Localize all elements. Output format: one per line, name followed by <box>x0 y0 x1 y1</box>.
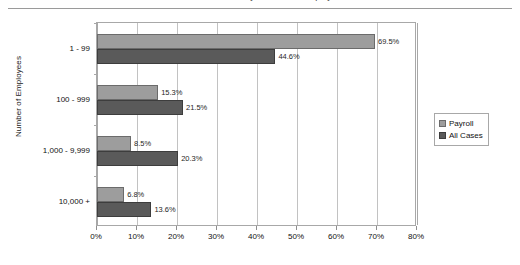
legend-swatch-payroll <box>439 120 446 127</box>
x-axis-tick <box>256 226 257 230</box>
x-axis-tick <box>376 226 377 230</box>
y-axis-tick <box>94 125 97 126</box>
x-axis-label: 0% <box>90 232 102 241</box>
x-axis-tick <box>336 226 337 230</box>
legend-item: All Cases <box>439 129 483 141</box>
y-axis-title: Number of Employees <box>14 27 23 167</box>
x-axis-tick <box>96 226 97 230</box>
x-axis-label: 60% <box>328 232 344 241</box>
x-axis-label: 50% <box>288 232 304 241</box>
bar-value-label: 15.3% <box>161 88 182 97</box>
legend-label: Payroll <box>449 119 473 128</box>
bar-value-label: 69.5% <box>378 37 399 46</box>
gridline-80pct <box>417 23 418 225</box>
bar-value-label: 8.5% <box>134 139 151 148</box>
category-row: 10,000 +6.8%13.6% <box>97 176 415 227</box>
chart-legend: PayrollAll Cases <box>434 113 489 146</box>
category-label: 100 - 999 <box>56 95 90 105</box>
bar-payroll <box>97 136 131 151</box>
x-axis-tick <box>216 226 217 230</box>
bar-payroll <box>97 34 375 49</box>
y-axis-tick <box>94 23 97 24</box>
bar-all-cases <box>97 49 275 64</box>
category-label: 10,000 + <box>59 197 90 207</box>
bar-value-label: 44.6% <box>278 52 299 61</box>
category-row: 1 - 9969.5%44.6% <box>97 23 415 74</box>
legend-label: All Cases <box>449 131 483 140</box>
bar-value-label: 20.3% <box>181 154 202 163</box>
y-axis-tick <box>94 176 97 177</box>
category-row: 100 - 99915.3%21.5% <box>97 74 415 125</box>
bar-payroll <box>97 187 124 202</box>
bar-payroll <box>97 85 158 100</box>
bar-all-cases <box>97 151 178 166</box>
x-axis-tick <box>416 226 417 230</box>
bar-value-label: 13.6% <box>154 205 175 214</box>
x-axis-tick <box>176 226 177 230</box>
x-axis-label: 80% <box>408 232 424 241</box>
category-row: 1,000 - 9,9998.5%20.3% <box>97 125 415 176</box>
y-axis-tick <box>94 74 97 75</box>
x-axis: 0%10%20%30%40%50%60%70%80% <box>96 226 416 250</box>
plot-area: 1 - 9969.5%44.6%100 - 99915.3%21.5%1,000… <box>96 22 416 226</box>
x-axis-label: 10% <box>128 232 144 241</box>
category-label: 1,000 - 9,999 <box>43 146 90 156</box>
bar-all-cases <box>97 202 151 217</box>
legend-swatch-all-cases <box>439 132 446 139</box>
category-label: 1 - 99 <box>70 44 90 54</box>
x-axis-label: 40% <box>248 232 264 241</box>
x-axis-label: 30% <box>208 232 224 241</box>
bar-chart: Number of Employees 1 - 9969.5%44.6%100 … <box>0 0 520 265</box>
x-axis-tick <box>136 226 137 230</box>
x-axis-label: 70% <box>368 232 384 241</box>
bar-value-label: 6.8% <box>127 190 144 199</box>
x-axis-tick <box>296 226 297 230</box>
legend-item: Payroll <box>439 117 483 129</box>
bar-value-label: 21.5% <box>186 103 207 112</box>
bar-all-cases <box>97 100 183 115</box>
x-axis-label: 20% <box>168 232 184 241</box>
